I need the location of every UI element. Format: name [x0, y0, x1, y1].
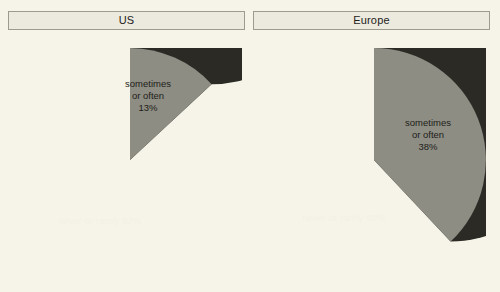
pie-chart-figure: US sometimes or often 13% never or rarel… [0, 0, 500, 292]
pie-svg-us: sometimes or often 13% never or rarely 8… [18, 48, 242, 272]
pie-chart-europe: sometimes or often 38% never or rarely 6… [262, 48, 486, 272]
panel-header-us: US [8, 11, 245, 30]
pie-label-never-or-rarely-europe: never or rarely 62% [302, 212, 385, 223]
pie-label-never-or-rarely-us: never or rarely 87% [58, 215, 141, 226]
panel-header-label-europe: Europe [353, 15, 390, 26]
panel-header-label-us: US [119, 15, 135, 26]
panel-header-europe: Europe [253, 11, 490, 30]
pie-label-line-3: 38% [418, 141, 438, 152]
pie-chart-us: sometimes or often 13% never or rarely 8… [18, 48, 242, 272]
pie-label-line-3: 13% [138, 102, 158, 113]
pie-label-line-2: or often [412, 129, 444, 140]
pie-label-line-1: sometimes [125, 78, 171, 89]
pie-label-line-1: sometimes [405, 117, 451, 128]
pie-label-line-2: or often [132, 90, 164, 101]
pie-svg-europe: sometimes or often 38% never or rarely 6… [262, 48, 486, 272]
